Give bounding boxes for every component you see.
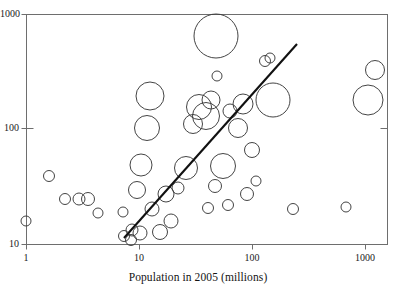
data-point bbox=[353, 85, 383, 115]
x-tick-label-100: 100 bbox=[227, 252, 277, 263]
data-point bbox=[288, 204, 299, 215]
data-point bbox=[245, 143, 260, 158]
data-point bbox=[44, 171, 55, 182]
data-point bbox=[82, 193, 95, 206]
data-point bbox=[366, 61, 385, 80]
data-point bbox=[193, 103, 220, 130]
plot-area bbox=[0, 0, 396, 289]
data-point bbox=[341, 202, 351, 212]
data-point bbox=[211, 154, 236, 179]
data-point bbox=[153, 225, 168, 240]
data-point bbox=[241, 188, 254, 201]
y-tick-label-100: 100 bbox=[0, 122, 19, 133]
data-point bbox=[251, 176, 261, 186]
x-tick-label-1000: 1000 bbox=[340, 252, 390, 263]
y-tick-label-10: 10 bbox=[0, 238, 19, 249]
data-point bbox=[202, 91, 220, 109]
x-tick-label-1: 1 bbox=[1, 252, 51, 263]
data-point bbox=[136, 82, 164, 110]
data-point bbox=[209, 180, 222, 193]
data-point bbox=[229, 119, 248, 138]
data-point bbox=[133, 226, 147, 240]
data-point bbox=[145, 202, 159, 216]
data-point bbox=[187, 95, 212, 120]
trend-line bbox=[124, 44, 297, 238]
data-point bbox=[164, 214, 178, 228]
data-points bbox=[21, 14, 385, 246]
data-point bbox=[223, 104, 237, 118]
data-point bbox=[60, 194, 71, 205]
x-tick-label-10: 10 bbox=[114, 252, 164, 263]
data-point bbox=[129, 182, 146, 199]
x-axis-title: Population in 2005 (millions) bbox=[0, 271, 396, 283]
data-point bbox=[256, 83, 290, 117]
data-point bbox=[212, 71, 222, 81]
data-point bbox=[118, 207, 128, 217]
y-tick-label-1000: 1000 bbox=[0, 8, 19, 19]
data-point bbox=[135, 116, 160, 141]
data-point bbox=[194, 14, 238, 58]
regression-line bbox=[124, 44, 297, 238]
axis-ticks bbox=[22, 15, 388, 250]
data-point bbox=[203, 203, 214, 214]
data-point bbox=[223, 200, 234, 211]
data-point bbox=[130, 154, 152, 176]
scatter-chart: 1010010001101001000 Population in 2005 (… bbox=[0, 0, 396, 289]
data-point bbox=[172, 182, 184, 194]
data-point bbox=[93, 208, 103, 218]
